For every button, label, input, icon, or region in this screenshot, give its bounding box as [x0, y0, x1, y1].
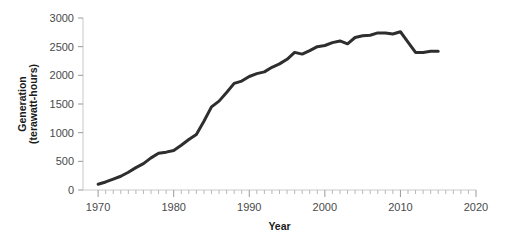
y-axis-tick-label: 2000 [50, 69, 74, 81]
y-axis-title-line2: (terawatt-hours) [27, 64, 39, 144]
y-axis-tick-label: 2500 [50, 41, 74, 53]
data-series-line [98, 32, 438, 185]
y-axis-tick-label: 1000 [50, 127, 74, 139]
x-axis-tick-label: 2000 [313, 201, 337, 213]
x-axis-title: Year [268, 220, 290, 232]
nuclear-generation-chart: 0500100015002000250030001970198019902000… [0, 0, 519, 239]
y-axis-tick-label: 1500 [50, 98, 74, 110]
x-axis-tick-label: 1990 [237, 201, 261, 213]
y-axis-tick-label: 3000 [50, 12, 74, 24]
chart-plot-area: 0500100015002000250030001970198019902000… [0, 0, 519, 239]
x-axis-tick-label: 2020 [464, 201, 488, 213]
x-axis-tick-label: 2010 [388, 201, 412, 213]
y-axis-tick-label: 0 [68, 184, 74, 196]
x-axis-tick-label: 1970 [86, 201, 110, 213]
x-axis-tick-label: 1980 [161, 201, 185, 213]
y-axis-tick-label: 500 [56, 155, 74, 167]
